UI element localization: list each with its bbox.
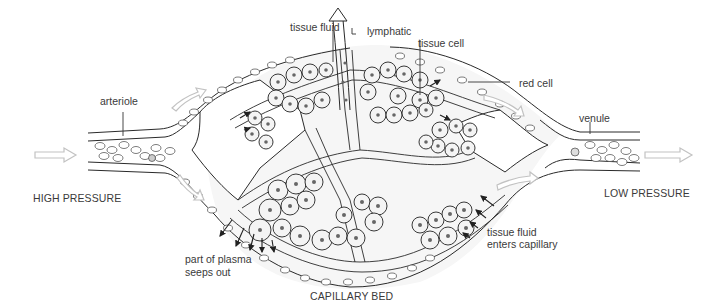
flow-out-arrow-icon (645, 148, 692, 162)
label-low-pressure: LOW PRESSURE (604, 187, 690, 199)
flow-arrow-upper-left-icon (172, 88, 206, 111)
flow-in-arrow-icon (35, 148, 76, 162)
label-plasma-seeps-line2: seeps out (185, 266, 231, 278)
label-plasma-seeps-line1: part of plasma (185, 253, 252, 265)
capillary-bed-diagram (0, 0, 712, 308)
label-high-pressure: HIGH PRESSURE (33, 192, 121, 204)
label-fluid-enters-line1: tissue fluid (487, 226, 537, 238)
flow-arrow-lower-left-icon (177, 175, 204, 200)
label-fluid-enters-line2: enters capillary (487, 238, 558, 250)
label-arteriole: arteriole (100, 95, 138, 107)
label-venule: venule (579, 112, 610, 124)
lymphatic-leader (352, 28, 356, 34)
label-tissue-fluid: tissue fluid (290, 21, 340, 33)
label-lymphatic: lymphatic (367, 25, 411, 37)
label-tissue-cell: tissue cell (418, 37, 464, 49)
diagram-title: CAPILLARY BED (310, 290, 393, 302)
label-red-cell: red cell (519, 77, 553, 89)
